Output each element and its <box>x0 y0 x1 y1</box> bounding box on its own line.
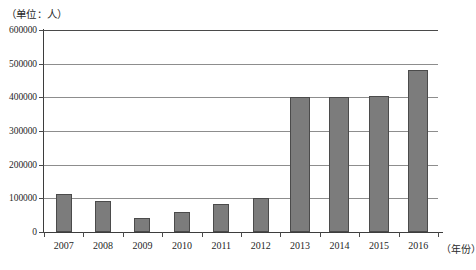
x-tick-mark-2014 <box>320 232 321 237</box>
y-axis-label-100000: 100000 <box>9 193 37 203</box>
x-axis-label-2009: 2009 <box>133 240 153 251</box>
y-axis-label-200000: 200000 <box>9 160 37 170</box>
bar-2014 <box>329 97 349 232</box>
bar-slot-2016 <box>399 30 438 232</box>
x-axis-label-2012: 2012 <box>251 240 271 251</box>
bar-chart-figure: （单位：人） 010000020000030000040000050000060… <box>0 0 476 270</box>
bar-slot-2011 <box>202 30 241 232</box>
bars-group <box>44 30 438 232</box>
y-axis-label-500000: 500000 <box>9 59 37 69</box>
x-axis-label-2007: 2007 <box>54 240 74 251</box>
y-axis-label-0: 0 <box>32 227 37 237</box>
y-axis-label-300000: 300000 <box>9 126 37 136</box>
x-tick-mark-2016 <box>399 232 400 237</box>
x-axis-label-2015: 2015 <box>369 240 389 251</box>
bar-slot-2007 <box>44 30 83 232</box>
x-tick-mark-2013 <box>280 232 281 237</box>
bar-2009 <box>134 218 150 232</box>
x-tick-mark-2007 <box>44 232 45 237</box>
bar-slot-2015 <box>359 30 398 232</box>
unit-caption: （单位：人） <box>6 6 67 21</box>
x-tick-mark-2008 <box>83 232 84 237</box>
x-tick-mark-2011 <box>202 232 203 237</box>
x-tick-mark-end <box>438 232 439 237</box>
bar-slot-2012 <box>241 30 280 232</box>
x-tick-mark-2009 <box>123 232 124 237</box>
x-axis-labels-group: 2007200820092010201120122013201420152016 <box>44 240 438 258</box>
plot-area: 0100000200000300000400000500000600000 <box>44 30 438 232</box>
y-axis-label-600000: 600000 <box>9 25 37 35</box>
bar-2010 <box>174 212 190 232</box>
bar-2015 <box>369 96 389 232</box>
bar-2007 <box>56 194 72 232</box>
bar-2012 <box>253 198 269 232</box>
bar-2013 <box>290 97 310 232</box>
x-tick-mark-2010 <box>162 232 163 237</box>
bar-slot-2008 <box>83 30 122 232</box>
x-axis-label-2008: 2008 <box>93 240 113 251</box>
x-axis-label-2010: 2010 <box>172 240 192 251</box>
x-axis-label-2016: 2016 <box>408 240 428 251</box>
x-tick-mark-2012 <box>241 232 242 237</box>
x-axis-label-2013: 2013 <box>290 240 310 251</box>
bar-slot-2009 <box>123 30 162 232</box>
bar-2011 <box>213 204 229 232</box>
bar-2008 <box>95 201 111 232</box>
x-axis-label-2011: 2011 <box>211 240 231 251</box>
x-axis-label-2014: 2014 <box>330 240 350 251</box>
y-axis-label-400000: 400000 <box>9 92 37 102</box>
x-tick-mark-2015 <box>359 232 360 237</box>
bar-slot-2014 <box>320 30 359 232</box>
bar-2016 <box>408 70 428 232</box>
x-axis-title: （年份） <box>441 241 476 256</box>
bar-slot-2013 <box>280 30 319 232</box>
bar-slot-2010 <box>162 30 201 232</box>
